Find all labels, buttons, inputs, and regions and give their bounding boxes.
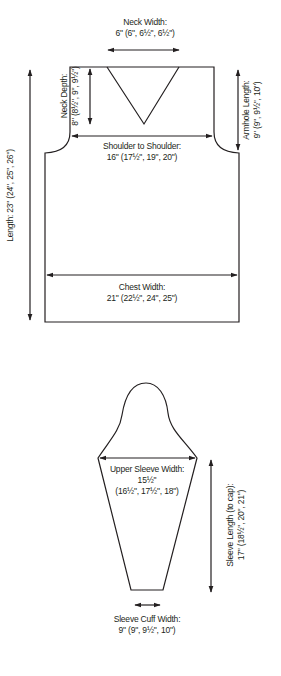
chest-width-label: Chest Width: 21" (22½", 24", 25") xyxy=(87,282,197,304)
neck-width-label: Neck Width: 6" (6", 6½", 6½") xyxy=(90,17,200,39)
armhole-length-label: Armhole Length: 9" (9", 9½", 10") xyxy=(241,65,263,155)
sleeve-length-value: 17" (18½", 20", 21") xyxy=(236,470,247,580)
chest-width-value: 21" (22½", 24", 25") xyxy=(87,293,197,304)
neck-width-title: Neck Width: xyxy=(90,17,200,28)
length-title: Length: 23" (24", 25", 26") xyxy=(5,131,16,261)
chest-width-title: Chest Width: xyxy=(87,282,197,293)
length-label: Length: 23" (24", 25", 26") xyxy=(5,131,16,261)
neck-depth-value: 8" (8½", 9", 9½") xyxy=(70,51,81,141)
sleeve-length-label: Sleeve Length (to cap): 17" (18½", 20", … xyxy=(225,470,247,580)
armhole-length-value: 9" (9", 9½", 10") xyxy=(252,65,263,155)
upper-sleeve-title: Upper Sleeve Width: xyxy=(92,464,202,475)
neck-width-value: 6" (6", 6½", 6½") xyxy=(90,28,200,39)
armhole-length-title: Armhole Length: xyxy=(241,65,252,155)
upper-sleeve-label: Upper Sleeve Width: 15½" (16½", 17½", 18… xyxy=(92,464,202,497)
upper-sleeve-value1: 15½" xyxy=(92,475,202,486)
cuff-width-value: 9" (9", 9½", 10") xyxy=(92,625,202,636)
cuff-width-label: Sleeve Cuff Width: 9" (9", 9½", 10") xyxy=(92,614,202,636)
v-neck xyxy=(107,67,179,124)
sleeve-length-title: Sleeve Length (to cap): xyxy=(225,470,236,580)
shoulder-title: Shoulder to Shoulder: xyxy=(87,141,197,152)
neck-depth-label: Neck Depth: 8" (8½", 9", 9½") xyxy=(59,51,81,141)
upper-sleeve-value2: (16½", 17½", 18") xyxy=(92,486,202,497)
shoulder-value: 16" (17½", 19", 20") xyxy=(87,152,197,163)
neck-depth-title: Neck Depth: xyxy=(59,51,70,141)
cuff-width-title: Sleeve Cuff Width: xyxy=(92,614,202,625)
shoulder-label: Shoulder to Shoulder: 16" (17½", 19", 20… xyxy=(87,141,197,163)
